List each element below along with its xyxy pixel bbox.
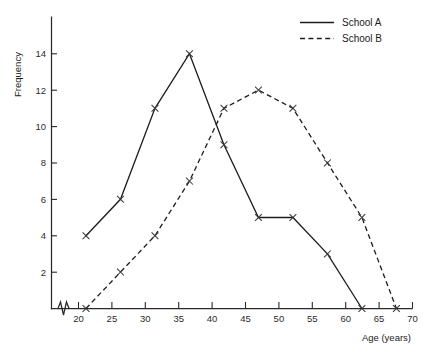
data-point-marker	[117, 196, 124, 203]
data-point-marker	[221, 105, 228, 112]
x-axis-title: Age (years)	[362, 332, 411, 343]
series-line-school-a	[86, 54, 362, 309]
y-tick-marks	[52, 54, 58, 272]
x-tick-label-45: 45	[240, 313, 251, 324]
data-point-marker	[186, 178, 193, 185]
series-markers-school-b	[83, 87, 400, 312]
data-point-marker	[83, 232, 90, 239]
x-tick-label-40: 40	[207, 313, 218, 324]
chart-page: 2 4 6 8 10 12 14 Frequency	[0, 0, 430, 355]
legend-label-school-a: School A	[342, 17, 382, 28]
y-tick-label-8: 8	[41, 157, 46, 168]
y-tick-label-2: 2	[41, 267, 46, 278]
x-tick-label-20: 20	[73, 313, 84, 324]
data-point-marker	[324, 251, 331, 258]
x-tick-label-30: 30	[140, 313, 151, 324]
data-point-marker	[186, 50, 193, 57]
y-tick-label-12: 12	[35, 85, 46, 96]
clipped-page-text-bottom	[0, 344, 430, 353]
data-point-marker	[290, 105, 297, 112]
data-point-marker	[324, 160, 331, 167]
x-tick-labels: 20 25 30 35 40 45 50 55 60 65 70	[73, 313, 418, 324]
x-tick-label-25: 25	[107, 313, 118, 324]
legend: School A School B	[300, 17, 382, 44]
x-tick-label-65: 65	[374, 313, 385, 324]
x-tick-label-70: 70	[407, 313, 418, 324]
series-group	[83, 50, 400, 312]
y-tick-labels: 2 4 6 8 10 12 14	[35, 48, 46, 277]
y-axis-title: Frequency	[12, 52, 23, 97]
x-tick-label-55: 55	[307, 313, 318, 324]
x-tick-label-50: 50	[274, 313, 285, 324]
y-tick-label-6: 6	[41, 194, 46, 205]
series-line-school-b	[86, 90, 396, 308]
x-tick-label-60: 60	[340, 313, 351, 324]
legend-label-school-b: School B	[342, 33, 382, 44]
data-point-marker	[255, 87, 262, 94]
y-tick-label-4: 4	[41, 230, 46, 241]
x-tick-label-35: 35	[173, 313, 184, 324]
data-point-marker	[152, 232, 159, 239]
data-point-marker	[221, 141, 228, 148]
y-tick-label-14: 14	[35, 48, 46, 59]
y-tick-label-10: 10	[35, 121, 46, 132]
data-point-marker	[117, 269, 124, 276]
y-axis: 2 4 6 8 10 12 14 Frequency	[12, 17, 57, 309]
series-markers-school-a	[83, 50, 366, 312]
data-point-marker	[152, 105, 159, 112]
frequency-polygon-chart: 2 4 6 8 10 12 14 Frequency	[0, 0, 430, 355]
data-point-marker	[359, 214, 366, 221]
